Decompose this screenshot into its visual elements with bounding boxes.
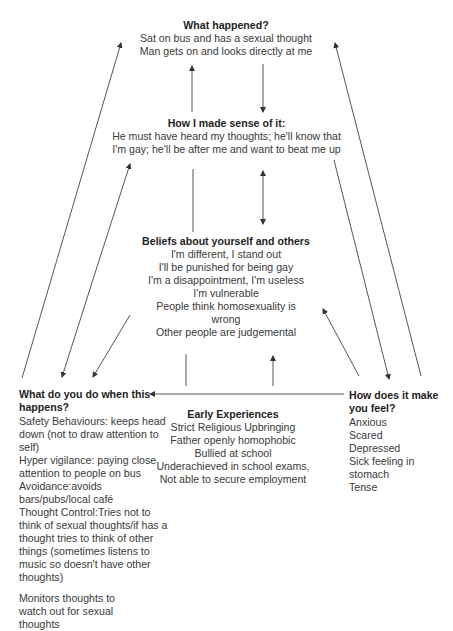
behaviour-item: Monitors thoughts to watch out for sexua… [19,592,144,631]
belief-item: wrong [126,313,326,326]
behaviour-item: Avoidance:avoids bars/pubs/local café [19,480,129,506]
feeling-item: Anxious [349,416,449,429]
feel-title-line1: How does it make [349,389,449,402]
arrow-beliefs-to-behaviour [93,315,130,377]
what-happened-title: What happened? [126,19,326,32]
feeling-item: Depressed [349,442,449,455]
what-happened-line: Sat on bus and has a sexual thought [126,32,326,45]
feeling-item: Tense [349,481,449,494]
belief-item: I'm vulnerable [126,287,326,300]
behaviour-box: What do you do when this happens? Safety… [19,388,169,631]
early-experience-item: Father openly homophobic [153,434,313,447]
sense-line: I'm gay; he'll be after me and want to b… [100,143,353,156]
belief-item: I'm different, I stand out [126,248,326,261]
belief-item: People think homosexuality is [126,300,326,313]
spacer [19,584,169,592]
feel-title-line2: you feel? [349,402,449,415]
behaviour-item: Safety Behaviours: keeps head down (not … [19,415,169,454]
feeling-item: Scared [349,429,449,442]
early-experience-item: Strict Religious Upbringing [153,421,313,434]
arrow-sense-to-feel [334,160,389,379]
arrow-feel-to-event [335,43,421,376]
beliefs-title: Beliefs about yourself and others [126,235,326,248]
what-happened-box: What happened? Sat on bus and has a sexu… [126,19,326,58]
feeling-item: Sick feeling in stomach [349,455,419,481]
feel-box: How does it make you feel? Anxious Scare… [349,389,449,494]
early-experiences-box: Early Experiences Strict Religious Upbri… [153,408,313,486]
early-experience-item: Not able to secure employment [153,473,313,486]
belief-item: I'll be punished for being gay [126,261,326,274]
behaviour-title-line2: happens? [19,401,169,414]
behaviour-item: Thought Control:Tries not to think of se… [19,506,169,584]
arrow-behaviour-to-event [22,43,121,378]
belief-item: Other people are judgemental [126,326,326,339]
sense-box: How I made sense of it: He must have hea… [100,117,353,156]
what-happened-line: Man gets on and looks directly at me [126,45,326,58]
behaviour-item: Hyper vigilance: paying close attention … [19,454,159,480]
early-experience-item: Underachieved in school exams, [153,460,313,473]
belief-item: I'm a disappointment, I'm useless [126,274,326,287]
sense-title: How I made sense of it: [100,117,353,130]
beliefs-box: Beliefs about yourself and others I'm di… [126,235,326,339]
early-experience-item: Bullied at school [153,447,313,460]
early-experiences-title: Early Experiences [153,408,313,421]
arrow-behaviour-to-sense [96,164,130,270]
behaviour-title-line1: What do you do when this [19,388,169,401]
sense-line: He must have heard my thoughts; he'll kn… [100,130,353,143]
arrow-sense-to-behaviour [62,270,96,377]
arrow-feel-to-beliefs [323,309,359,376]
